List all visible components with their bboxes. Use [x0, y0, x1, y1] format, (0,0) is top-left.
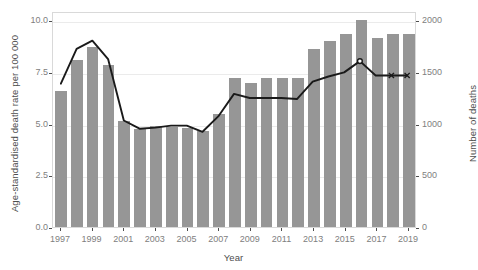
y-axis-left-tick-mark	[49, 73, 52, 74]
x-axis-tick-label: 2019	[388, 234, 428, 244]
y-axis-right-tick-label: 1500	[422, 67, 462, 77]
x-axis-tick-mark	[281, 228, 282, 231]
y-axis-right-tick-mark	[416, 125, 419, 126]
line-series	[53, 13, 415, 227]
plot-panel	[52, 12, 416, 228]
x-axis-tick-mark	[155, 228, 156, 231]
y-axis-left-tick-mark	[49, 125, 52, 126]
y-axis-right-tick-mark	[416, 228, 419, 229]
x-axis-tick-mark	[408, 228, 409, 231]
y-axis-left-tick-mark	[49, 228, 52, 229]
x-axis-tick-mark	[92, 228, 93, 231]
y-axis-left-tick-label: 10.0	[8, 15, 48, 25]
x-axis-tick-mark	[250, 228, 251, 231]
y-axis-left-tick-label: 0.0	[8, 222, 48, 232]
line-marker-circle	[358, 59, 363, 64]
y-axis-right-tick-label: 0	[422, 222, 462, 232]
x-axis-tick-mark	[345, 228, 346, 231]
x-axis-tick-mark	[187, 228, 188, 231]
x-axis-title: Year	[0, 252, 467, 263]
y-axis-right-tick-mark	[416, 21, 419, 22]
x-axis-tick-mark	[60, 228, 61, 231]
x-axis-tick-mark	[313, 228, 314, 231]
x-axis-tick-mark	[123, 228, 124, 231]
x-axis-tick-mark	[218, 228, 219, 231]
y-axis-left-tick-label: 7.5	[8, 67, 48, 77]
y-axis-left-tick-mark	[49, 21, 52, 22]
y-axis-right-tick-label: 2000	[422, 15, 462, 25]
y-axis-left-tick-label: 5.0	[8, 119, 48, 129]
y-axis-right-tick-mark	[416, 73, 419, 74]
x-axis-tick-mark	[376, 228, 377, 231]
y-axis-left-tick-mark	[49, 176, 52, 177]
y-axis-right-title: Number of deaths	[467, 24, 478, 224]
y-axis-right-tick-label: 500	[422, 170, 462, 180]
y-axis-right-tick-label: 1000	[422, 119, 462, 129]
line-path	[61, 41, 407, 132]
y-axis-right-tick-mark	[416, 176, 419, 177]
y-axis-left-tick-label: 2.5	[8, 170, 48, 180]
